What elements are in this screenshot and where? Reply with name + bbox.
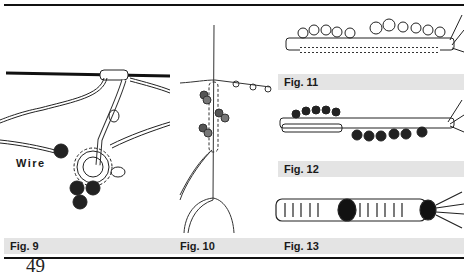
fig11-drawing	[286, 15, 464, 52]
fig9-drawing	[0, 70, 170, 209]
fig13-drawing	[276, 192, 464, 228]
fig13-caption: Fig. 13	[278, 238, 464, 254]
fig10-drawing	[180, 25, 271, 233]
fig11-caption: Fig. 11	[278, 74, 464, 90]
page-number: 49	[26, 255, 45, 276]
fig9-caption: Fig. 9	[4, 238, 174, 254]
illustrations	[0, 0, 464, 276]
fig12-drawing	[280, 100, 464, 141]
fig12-caption: Fig. 12	[278, 161, 464, 177]
wire-label: Wire	[16, 157, 46, 169]
fig10-caption: Fig. 10	[174, 238, 278, 254]
